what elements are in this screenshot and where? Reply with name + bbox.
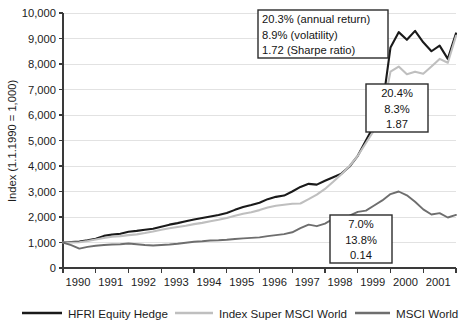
x-axis-tick-label: 1992: [131, 276, 156, 288]
x-axis-tick-label: 1996: [262, 276, 287, 288]
chart-container: 01,0002,0003,0004,0005,0006,0007,0008,00…: [0, 0, 462, 328]
y-axis-tick-label: 4,000: [28, 160, 56, 172]
x-axis-tick-label: 2000: [393, 276, 418, 288]
y-axis-tick-label: 7,000: [28, 84, 56, 96]
index-performance-line-chart: 01,0002,0003,0004,0005,0006,0007,0008,00…: [0, 0, 462, 328]
y-axis-tick-label: 6,000: [28, 109, 56, 121]
y-axis-tick-label: 9,000: [28, 33, 56, 45]
y-axis-title: Index (1.1.1990 = 1,000): [6, 80, 18, 202]
y-axis-tick-label: 8,000: [28, 58, 56, 70]
x-axis-tick-label: 1990: [66, 276, 91, 288]
y-axis-tick-label: 0: [50, 262, 56, 274]
x-axis-tick-label: 1991: [98, 276, 123, 288]
legend-label: MSCI World: [396, 307, 458, 320]
x-axis-tick-label: 1998: [328, 276, 353, 288]
callout-index-super: 20.4%8.3%1.87: [366, 84, 428, 132]
callout-line: 7.0%: [348, 218, 374, 230]
y-axis-tick-label: 5,000: [28, 135, 56, 147]
x-axis-tick-label: 1994: [197, 276, 222, 288]
x-axis-tick-label: 2001: [426, 276, 451, 288]
legend-label: HFRI Equity Hedge: [68, 307, 168, 320]
x-axis-tick-label: 1995: [229, 276, 254, 288]
callout-line: 8.9% (volatility): [262, 29, 338, 41]
callout-line: 20.3% (annual return): [262, 13, 370, 25]
y-axis-tick-label: 10,000: [22, 7, 56, 19]
callout-line: 20.4%: [381, 87, 413, 99]
callout-msci-world: 7.0%13.8%0.14: [330, 215, 392, 263]
callout-line: 1.72 (Sharpe ratio): [262, 44, 356, 56]
y-axis-tick-label: 1,000: [28, 237, 56, 249]
callout-line: 0.14: [350, 249, 372, 261]
legend-label: Index Super MSCI World: [219, 307, 347, 320]
x-axis-tick-label: 1999: [360, 276, 385, 288]
callout-line: 13.8%: [345, 234, 377, 246]
y-axis-tick-label: 2,000: [28, 211, 56, 223]
x-axis-tick-label: 1993: [164, 276, 189, 288]
y-axis-tick-label: 3,000: [28, 186, 56, 198]
callout-hfri: 20.3% (annual return)8.9% (volatility)1.…: [258, 10, 388, 58]
x-axis-tick-label: 1997: [295, 276, 320, 288]
callout-line: 8.3%: [384, 103, 410, 115]
callout-line: 1.87: [386, 118, 408, 130]
